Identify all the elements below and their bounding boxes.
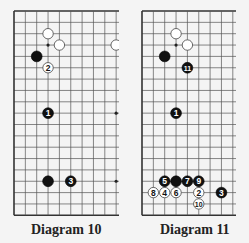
svg-text:11: 11 — [184, 65, 192, 72]
svg-text:3: 3 — [68, 176, 73, 186]
black-stone-11: 11 — [182, 62, 193, 73]
svg-text:3: 3 — [219, 188, 224, 198]
black-stone — [43, 176, 54, 187]
svg-text:2: 2 — [46, 63, 51, 73]
white-stone-8: 8 — [148, 187, 158, 197]
stones: 213 — [31, 29, 121, 187]
black-stone-7: 7 — [182, 176, 193, 187]
hoshi-point — [115, 180, 118, 183]
hoshi-point — [174, 43, 177, 46]
black-stone-1: 1 — [171, 108, 182, 119]
svg-text:4: 4 — [162, 188, 167, 198]
white-stone-2: 2 — [194, 187, 204, 197]
svg-text:10: 10 — [195, 201, 203, 208]
white-stone — [171, 29, 181, 39]
black-stone-3: 3 — [216, 187, 227, 198]
diagram-10-caption: Diagram 10 — [31, 222, 101, 238]
svg-text:1: 1 — [174, 108, 179, 118]
black-stone — [159, 51, 170, 62]
svg-text:8: 8 — [151, 188, 156, 198]
go-diagrams-canvas: 2131115798462310 — [0, 0, 249, 243]
white-stone — [54, 40, 64, 50]
black-stone-5: 5 — [159, 176, 170, 187]
hoshi-point — [46, 43, 49, 46]
black-stone — [31, 51, 42, 62]
svg-text:5: 5 — [162, 176, 167, 186]
white-stone-4: 4 — [160, 187, 170, 197]
white-stone-10: 10 — [194, 199, 204, 209]
go-board-10: 213 — [14, 11, 139, 215]
white-stone — [111, 40, 121, 50]
black-stone — [171, 176, 182, 187]
svg-text:6: 6 — [174, 188, 179, 198]
grid-lines — [14, 11, 139, 215]
white-stone — [43, 29, 53, 39]
black-stone-9: 9 — [193, 176, 204, 187]
black-stone-3: 3 — [65, 176, 76, 187]
white-stone — [182, 40, 192, 50]
black-stone-1: 1 — [43, 108, 54, 119]
white-stone-2: 2 — [43, 63, 53, 73]
svg-text:2: 2 — [196, 188, 201, 198]
svg-text:7: 7 — [185, 176, 190, 186]
svg-text:1: 1 — [46, 108, 51, 118]
white-stone-6: 6 — [171, 187, 181, 197]
go-board-11: 1115798462310 — [142, 11, 249, 215]
svg-text:9: 9 — [196, 176, 201, 186]
hoshi-point — [115, 112, 118, 115]
diagram-11-caption: Diagram 11 — [160, 222, 230, 238]
